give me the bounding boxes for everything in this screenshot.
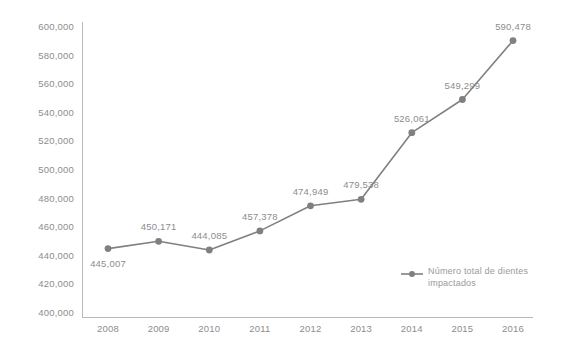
data-point-marker [358,196,365,203]
line-chart: 600,000580,000560,000540,000520,000500,0… [0,0,563,351]
data-point-marker [105,245,112,252]
data-point-marker [155,238,162,245]
legend-line-circle-marker [401,270,423,278]
legend-item-label: Número total de dientes impactados [428,266,548,289]
data-point-marker [257,228,264,235]
series-line [108,41,513,250]
data-point-label: 590,478 [478,21,548,32]
plot-area [0,0,563,351]
data-point-label: 445,007 [73,258,143,269]
data-point-label: 444,085 [174,230,244,241]
data-point-label: 457,378 [225,211,295,222]
data-point-label: 549,299 [427,80,497,91]
legend: Número total de dientes impactados [401,266,548,289]
data-point-marker [408,129,415,136]
data-point-marker [459,96,466,103]
data-point-marker [510,37,517,44]
data-point-label: 526,061 [377,113,447,124]
data-point-label: 479,538 [326,179,396,190]
data-point-marker [307,202,314,209]
data-point-marker [206,247,213,254]
